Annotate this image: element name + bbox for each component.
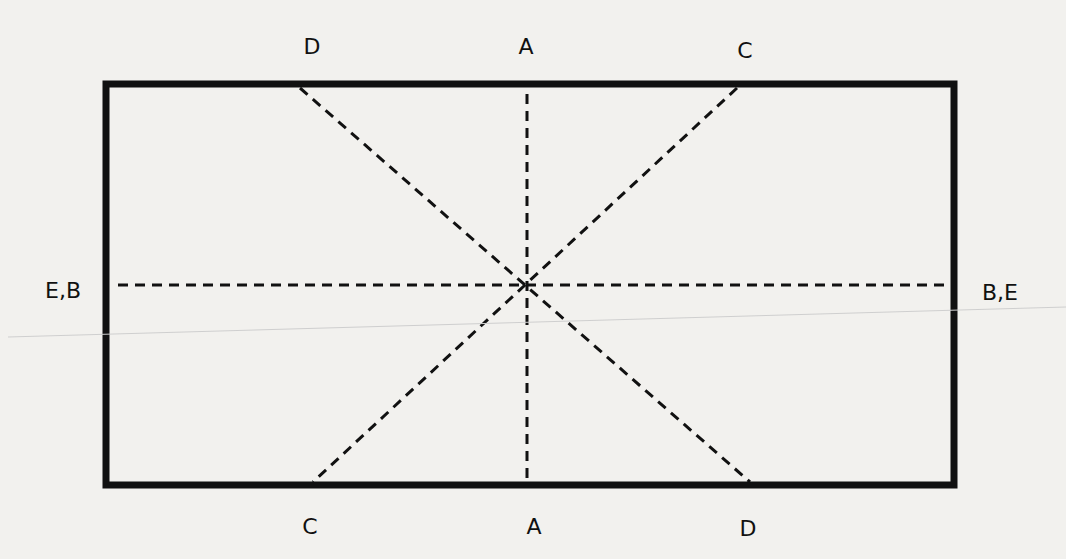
label-top-a: A <box>518 34 533 59</box>
label-bottom-c: C <box>302 514 317 539</box>
label-bottom-d: D <box>740 516 757 541</box>
diagram-canvas <box>0 0 1066 559</box>
scan-rule <box>8 307 1066 337</box>
label-top-c: C <box>737 38 752 63</box>
label-right-be: B,E <box>982 280 1018 305</box>
label-top-d: D <box>304 34 321 59</box>
label-left-eb: E,B <box>45 278 81 303</box>
label-bottom-a: A <box>526 514 541 539</box>
